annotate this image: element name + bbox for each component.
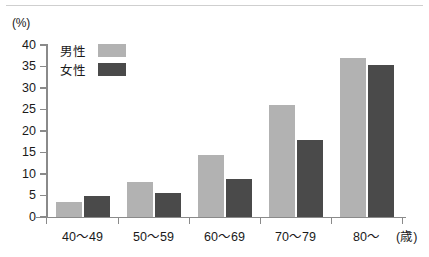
bar bbox=[226, 179, 252, 217]
legend-color-swatch bbox=[98, 44, 126, 57]
x-axis-separator bbox=[331, 217, 332, 224]
bar-chart: (%) 0510152025303540 40～4950～5960～6970～7… bbox=[0, 0, 429, 257]
chart-legend: 男性女性 bbox=[60, 42, 126, 80]
bar bbox=[84, 196, 110, 218]
x-axis-separator bbox=[46, 217, 47, 224]
y-axis-tick bbox=[40, 109, 47, 110]
y-axis-tick-label: 40 bbox=[2, 39, 36, 52]
y-axis-tick-label: 15 bbox=[2, 146, 36, 159]
y-axis-tick-label: 10 bbox=[2, 168, 36, 181]
y-axis-tick bbox=[40, 44, 47, 45]
x-axis-separator bbox=[402, 217, 403, 224]
y-axis-tick-label: 20 bbox=[2, 125, 36, 138]
x-axis-tick-label: 50～59 bbox=[118, 226, 189, 245]
bar bbox=[198, 155, 224, 217]
legend-item: 男性 bbox=[60, 42, 126, 59]
y-axis-unit-label: (%) bbox=[12, 16, 30, 30]
y-axis-tick bbox=[40, 173, 47, 174]
bar bbox=[340, 58, 366, 217]
y-axis-tick bbox=[40, 87, 47, 88]
x-axis-tick-label: 70～79 bbox=[260, 226, 331, 245]
x-axis-separator bbox=[189, 217, 190, 224]
x-axis-separator bbox=[260, 217, 261, 224]
x-axis-tick-label: 40～49 bbox=[47, 226, 118, 245]
bar bbox=[269, 105, 295, 217]
y-axis-tick-label: 25 bbox=[2, 103, 36, 116]
bar bbox=[368, 65, 394, 217]
x-axis-tick-label: 60～69 bbox=[189, 226, 260, 245]
bar bbox=[297, 140, 323, 217]
top-divider-rule bbox=[6, 5, 423, 6]
y-axis-tick-label: 35 bbox=[2, 60, 36, 73]
y-axis-tick-label: 30 bbox=[2, 82, 36, 95]
x-axis-separator bbox=[118, 217, 119, 224]
y-axis-tick bbox=[40, 66, 47, 67]
y-axis-tick bbox=[40, 152, 47, 153]
y-axis-tick-label: 5 bbox=[2, 189, 36, 202]
y-axis-tick-label: 0 bbox=[2, 211, 36, 224]
bar bbox=[56, 202, 82, 217]
x-axis-tick-label: 80～ bbox=[331, 226, 402, 245]
legend-item-label: 男性 bbox=[60, 41, 94, 60]
bar bbox=[127, 182, 153, 217]
x-axis-unit-label: (歳) bbox=[396, 226, 417, 245]
y-axis-tick bbox=[40, 130, 47, 131]
legend-color-swatch bbox=[98, 63, 126, 76]
y-axis-tick bbox=[40, 195, 47, 196]
legend-item: 女性 bbox=[60, 61, 126, 78]
legend-item-label: 女性 bbox=[60, 60, 94, 79]
bar bbox=[155, 193, 181, 217]
